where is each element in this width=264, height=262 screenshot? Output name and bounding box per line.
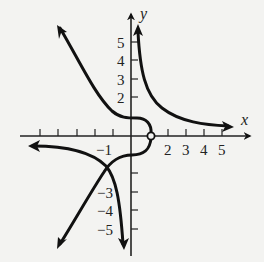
y-tick-label-neg3: −3 bbox=[97, 185, 113, 201]
y-tick-label-5: 5 bbox=[117, 35, 125, 51]
y-axis-label: y bbox=[138, 5, 148, 23]
x-tick-label-5: 5 bbox=[218, 142, 226, 158]
y-tick-label-neg5: −5 bbox=[97, 222, 113, 238]
x-tick-label-2: 2 bbox=[164, 142, 172, 158]
y-tick-label-3: 3 bbox=[117, 72, 125, 88]
open-point bbox=[147, 132, 154, 139]
x-tick-label-3: 3 bbox=[182, 142, 190, 158]
graph: x y −1 2 3 4 5 5 4 3 2 −3 −4 −5 bbox=[0, 0, 264, 262]
x-axis-label: x bbox=[240, 111, 248, 128]
y-tick-label-neg4: −4 bbox=[97, 203, 113, 219]
y-tick-label-2: 2 bbox=[117, 90, 125, 106]
y-tick-label-4: 4 bbox=[117, 53, 125, 69]
x-tick-label-neg1: −1 bbox=[96, 142, 112, 158]
x-tick-label-4: 4 bbox=[200, 142, 208, 158]
curve-upper-right bbox=[138, 32, 228, 126]
